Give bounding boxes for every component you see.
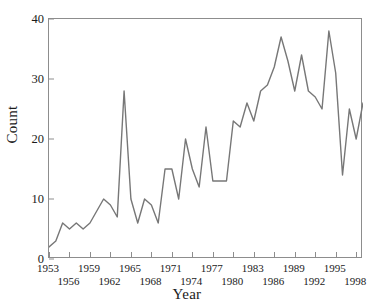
y-tick-label: 30 — [32, 72, 45, 87]
x-tick-mark — [233, 252, 234, 257]
x-tick-label: 1953 — [37, 262, 59, 274]
x-tick-mark — [69, 252, 70, 257]
y-tick-mark — [49, 259, 54, 260]
x-tick-mark — [356, 252, 357, 257]
x-tick-mark — [295, 252, 296, 257]
y-tick-mark — [49, 199, 54, 200]
x-tick-mark — [172, 252, 173, 257]
x-tick-mark — [49, 252, 50, 257]
y-axis-title: Count — [4, 89, 21, 161]
x-tick-label: 1998 — [344, 275, 366, 287]
x-tick-mark — [90, 252, 91, 257]
y-tick-label: 20 — [32, 132, 45, 147]
y-tick-label: 40 — [32, 12, 45, 27]
x-tick-label: 1989 — [283, 262, 305, 274]
x-tick-mark — [151, 252, 152, 257]
y-tick-label: 10 — [32, 192, 45, 207]
x-tick-mark — [336, 252, 337, 257]
x-tick-label: 1962 — [98, 275, 120, 287]
x-axis-title: Year — [0, 286, 374, 303]
y-tick-mark — [49, 139, 54, 140]
x-tick-label: 1965 — [119, 262, 141, 274]
x-tick-mark — [110, 252, 111, 257]
x-tick-mark — [131, 252, 132, 257]
x-tick-mark — [192, 252, 193, 257]
x-tick-mark — [213, 252, 214, 257]
x-tick-label: 1974 — [180, 275, 202, 287]
plot-area: 010203040 — [48, 18, 362, 258]
cropped-caption-sliver-left — [16, 0, 23, 5]
x-tick-mark — [254, 252, 255, 257]
figure: Count Year 010203040 1953195619591962196… — [0, 0, 374, 307]
x-tick-label: 1986 — [262, 275, 284, 287]
x-tick-label: 1992 — [303, 275, 325, 287]
y-tick-mark — [49, 79, 54, 80]
x-tick-label: 1968 — [139, 275, 161, 287]
x-tick-label: 1980 — [221, 275, 243, 287]
x-tick-mark — [315, 252, 316, 257]
cropped-caption-sliver-right — [138, 0, 145, 5]
x-tick-label: 1995 — [324, 262, 346, 274]
x-tick-mark — [274, 252, 275, 257]
line-series-count — [49, 19, 363, 259]
x-tick-label: 1983 — [242, 262, 264, 274]
x-tick-label: 1956 — [57, 275, 79, 287]
x-tick-label: 1971 — [160, 262, 182, 274]
y-tick-mark — [49, 19, 54, 20]
x-tick-label: 1977 — [201, 262, 223, 274]
x-tick-label: 1959 — [78, 262, 100, 274]
